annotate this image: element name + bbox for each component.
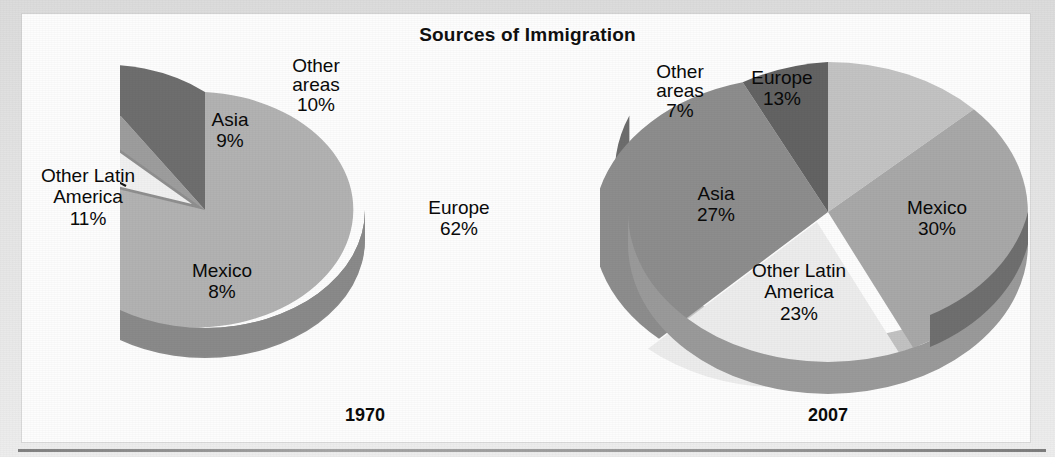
label-europe-1970-name: Europe — [428, 197, 489, 218]
label-ola-1970-name2: America — [8, 186, 168, 207]
label-ola-2007-name1: Other Latin — [752, 260, 846, 281]
label-mexico-2007: Mexico 30% — [882, 198, 992, 239]
label-other-areas-2007-pct: 7% — [635, 101, 725, 120]
label-other-areas-1970-name1: Other — [292, 55, 340, 76]
label-ola-1970-pct: 11% — [8, 208, 168, 229]
label-europe-2007-pct: 13% — [727, 89, 837, 110]
label-asia-1970-name: Asia — [212, 109, 249, 130]
label-other-latin-america-1970: Other Latin America 11% — [8, 165, 168, 229]
label-ola-2007-name2: America — [715, 281, 883, 302]
label-asia-2007: Asia 27% — [672, 184, 760, 225]
year-label-2007: 2007 — [748, 405, 908, 426]
label-other-areas-1970-pct: 10% — [268, 95, 364, 114]
label-europe-2007-name: Europe — [751, 67, 812, 88]
label-mexico-1970-name: Mexico — [192, 260, 252, 281]
label-other-latin-america-2007: Other Latin America 23% — [715, 260, 883, 324]
label-other-areas-2007: Other areas 7% — [635, 62, 725, 120]
label-ola-2007-pct: 23% — [715, 303, 883, 324]
label-ola-1970-name1: Other Latin — [41, 165, 135, 186]
label-other-areas-2007-name1: Other — [656, 61, 704, 82]
label-mexico-2007-name: Mexico — [907, 197, 967, 218]
page-title: Sources of Immigration — [0, 24, 1055, 46]
label-mexico-1970: Mexico 8% — [172, 261, 272, 302]
label-mexico-2007-pct: 30% — [882, 219, 992, 240]
label-asia-2007-name: Asia — [698, 183, 735, 204]
label-asia-1970: Asia 9% — [190, 110, 270, 151]
label-other-areas-1970: Other areas 10% — [268, 56, 364, 114]
year-label-1970: 1970 — [285, 405, 445, 426]
label-europe-1970: Europe 62% — [404, 198, 514, 239]
label-mexico-1970-pct: 8% — [172, 282, 272, 303]
label-europe-1970-pct: 62% — [404, 219, 514, 240]
label-asia-2007-pct: 27% — [672, 205, 760, 226]
label-other-areas-1970-name2: areas — [268, 75, 364, 94]
label-other-areas-2007-name2: areas — [635, 81, 725, 100]
label-asia-1970-pct: 9% — [190, 131, 270, 152]
label-europe-2007: Europe 13% — [727, 68, 837, 109]
